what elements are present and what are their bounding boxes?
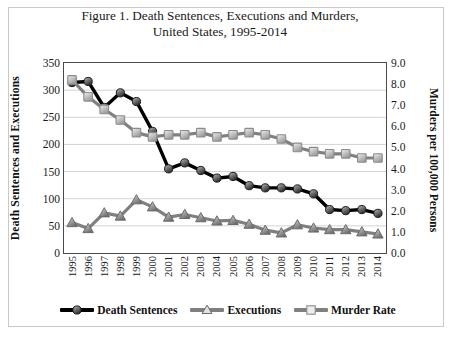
data-point xyxy=(277,135,286,144)
data-point xyxy=(342,207,350,215)
x-axis-tick: 2008 xyxy=(274,256,288,277)
x-axis-tick-label: 2013 xyxy=(356,256,367,277)
x-axis-tick-label: 2000 xyxy=(147,256,158,277)
x-axis-tick-label: 2010 xyxy=(308,256,319,277)
legend-item[interactable]: Murder Rate xyxy=(294,304,396,316)
y-axis-right-tick: 5.0 xyxy=(391,141,405,153)
chart-title: Figure 1. Death Sentences, Executions an… xyxy=(40,8,400,40)
x-axis-tick: 1997 xyxy=(97,256,111,277)
data-point xyxy=(148,133,157,142)
data-point xyxy=(132,97,140,105)
y-axis-left-tick: 100 xyxy=(43,193,60,205)
y-axis-left-tick: 150 xyxy=(43,166,60,178)
x-axis-tick: 2003 xyxy=(194,256,208,277)
x-axis-tick: 2004 xyxy=(210,256,224,277)
x-axis-tick: 2005 xyxy=(226,256,240,277)
x-axis-tick-label: 2005 xyxy=(228,256,239,277)
data-point xyxy=(67,217,77,226)
legend-marker xyxy=(73,306,81,314)
data-point xyxy=(293,185,301,193)
data-point xyxy=(213,174,221,182)
data-point xyxy=(325,149,334,158)
legend-item[interactable]: Death Sentences xyxy=(60,304,177,316)
legend-swatch-triangle-icon xyxy=(190,304,224,316)
x-axis-tick: 2000 xyxy=(146,256,160,277)
data-point xyxy=(261,184,269,192)
data-point xyxy=(229,172,237,180)
data-point xyxy=(358,205,366,213)
x-axis-tick: 2012 xyxy=(339,256,353,277)
x-axis-tick-label: 1999 xyxy=(131,256,142,277)
x-axis-tick-label: 1997 xyxy=(99,256,110,277)
data-point xyxy=(245,182,253,190)
series-line xyxy=(72,81,378,213)
legend-swatch-square-icon xyxy=(294,304,328,316)
x-axis-tick: 2006 xyxy=(242,256,256,277)
data-point xyxy=(374,209,382,217)
legend-item[interactable]: Executions xyxy=(190,304,281,316)
x-axis-tick-label: 2003 xyxy=(195,256,206,277)
x-axis-tick: 2002 xyxy=(178,256,192,277)
data-point xyxy=(100,105,109,114)
legend-label: Death Sentences xyxy=(97,304,177,316)
x-axis-tick-label: 2012 xyxy=(340,256,351,277)
y-axis-right-tick: 4.0 xyxy=(391,163,405,175)
data-point xyxy=(116,89,124,97)
data-point xyxy=(245,128,254,137)
data-point xyxy=(309,147,318,156)
data-point xyxy=(84,92,93,101)
data-point xyxy=(229,130,238,139)
x-axis-tick: 2014 xyxy=(371,256,385,277)
data-point xyxy=(197,166,205,174)
data-point xyxy=(341,149,350,158)
data-point xyxy=(293,143,302,152)
y-axis-right-tick: 6.0 xyxy=(391,120,405,132)
data-point xyxy=(164,130,173,139)
series-death-sentences xyxy=(68,77,382,217)
y-axis-right-tick: 1.0 xyxy=(391,226,405,238)
data-point xyxy=(213,133,222,142)
x-axis-tick: 2007 xyxy=(258,256,272,277)
y-axis-right-tick: 2.0 xyxy=(391,205,405,217)
y-axis-right-tick: 7.0 xyxy=(391,99,405,111)
x-axis-tick-label: 1998 xyxy=(115,256,126,277)
x-axis-tick-label: 2007 xyxy=(260,256,271,277)
data-point xyxy=(197,128,206,137)
y-axis-left-tick: 200 xyxy=(43,138,60,150)
x-axis-tick: 1999 xyxy=(129,256,143,277)
y-axis-right-tick: 0.0 xyxy=(391,247,405,259)
series-executions xyxy=(67,195,383,238)
y-axis-right-tick: 9.0 xyxy=(391,57,405,69)
legend-label: Murder Rate xyxy=(331,304,396,316)
chart-title-line-1: Figure 1. Death Sentences, Executions an… xyxy=(40,8,400,24)
y-axis-left-tick: 0 xyxy=(54,247,60,259)
series-murder-rate xyxy=(68,76,383,163)
legend-marker xyxy=(307,306,315,314)
data-point xyxy=(358,154,367,163)
data-point xyxy=(116,116,125,125)
chart-title-line-2: United States, 1995-2014 xyxy=(40,24,400,40)
x-axis-tick-label: 1995 xyxy=(67,256,78,277)
data-point xyxy=(326,205,334,213)
data-point xyxy=(84,77,92,85)
x-axis-tick: 1998 xyxy=(113,256,127,277)
legend-label: Executions xyxy=(227,304,281,316)
x-axis-tick: 2009 xyxy=(290,256,304,277)
x-axis-tick: 1995 xyxy=(65,256,79,277)
y-axis-left-tick: 350 xyxy=(43,57,60,69)
x-axis-tick: 2011 xyxy=(323,256,337,277)
x-axis-tick-label: 2008 xyxy=(276,256,287,277)
data-point xyxy=(165,165,173,173)
x-axis-tick-label: 1996 xyxy=(83,256,94,277)
y-axis-right-tick: 3.0 xyxy=(391,184,405,196)
chart-canvas xyxy=(64,63,386,253)
plot-area xyxy=(63,62,387,254)
data-point xyxy=(374,154,383,163)
x-axis-tick-label: 2006 xyxy=(244,256,255,277)
data-point xyxy=(132,128,141,137)
chart-legend: Death SentencesExecutionsMurder Rate xyxy=(63,300,393,320)
x-axis-tick-label: 2009 xyxy=(292,256,303,277)
data-point xyxy=(68,76,77,85)
data-point xyxy=(277,184,285,192)
data-point xyxy=(131,195,141,204)
